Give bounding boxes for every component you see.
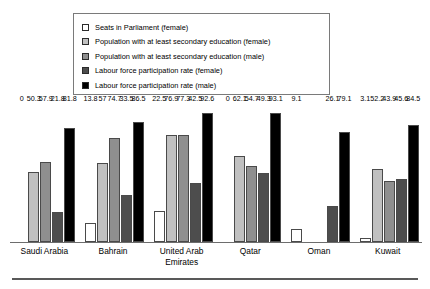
- bar-slot: 52.2: [372, 103, 383, 242]
- bar[interactable]: 92.6: [202, 113, 213, 242]
- bar[interactable]: 9.1: [291, 229, 302, 242]
- legend-swatch-icon: [82, 24, 89, 31]
- category-label: Saudi Arabia: [10, 246, 79, 257]
- legend-item-label: Population with at least secondary educa…: [95, 52, 264, 61]
- legend-swatch-icon: [82, 38, 89, 45]
- legend-item[interactable]: Population with at least secondary educa…: [82, 49, 329, 64]
- legend-item[interactable]: Labour force participation rate (male): [82, 78, 329, 93]
- bar[interactable]: 57: [97, 163, 108, 242]
- bar[interactable]: 43.9: [384, 181, 395, 242]
- category-label-line: Emirates: [147, 257, 216, 268]
- legend-item-label: Labour force participation rate (male): [95, 81, 216, 90]
- chart-page: Seats in Parliament (female)Population w…: [0, 0, 430, 289]
- bar-slot: 62.1: [234, 103, 245, 242]
- bar-value-label: 0: [226, 95, 230, 103]
- bar[interactable]: 57.9: [40, 162, 51, 242]
- x-axis-category-labels: Saudi ArabiaBahrainUnited ArabEmiratesQa…: [10, 246, 422, 274]
- bar[interactable]: 74.7: [109, 138, 120, 242]
- bar-slot: 42.5: [190, 103, 201, 242]
- bar-value-label: 84.5: [406, 95, 420, 103]
- bar-slot: 76.9: [166, 103, 177, 242]
- bar[interactable]: 52.2: [372, 169, 383, 242]
- bar-group: 9.126.179.1: [291, 103, 351, 242]
- bar-slot: 9.1: [291, 103, 302, 242]
- bar-slot: 33.5: [121, 103, 132, 242]
- category-label: United ArabEmirates: [147, 246, 216, 267]
- bar[interactable]: 84.5: [408, 125, 419, 242]
- category-label-line: United Arab: [147, 246, 216, 257]
- legend-item[interactable]: Seats in Parliament (female): [82, 20, 329, 35]
- bar-slot: 57.9: [40, 103, 51, 242]
- bar[interactable]: 93.1: [270, 113, 281, 242]
- bar-slot: 45.6: [396, 103, 407, 242]
- bar[interactable]: 26.1: [327, 206, 338, 242]
- bar-slot: 92.6: [202, 103, 213, 242]
- bar[interactable]: 45.6: [396, 179, 407, 242]
- bar-slot: 43.9: [384, 103, 395, 242]
- bar-value-label: 3.1: [360, 95, 370, 103]
- bar[interactable]: 77.3: [178, 135, 189, 242]
- bar[interactable]: 79.1: [339, 132, 350, 242]
- bar-value-label: 93.1: [269, 95, 283, 103]
- bar-slot: 50.3: [28, 103, 39, 242]
- bar-group: 3.152.243.945.684.5: [360, 103, 420, 242]
- bar[interactable]: 62.1: [234, 156, 245, 242]
- bar-value-label: 86.5: [132, 95, 146, 103]
- category-label-line: Qatar: [216, 246, 285, 257]
- category-label: Bahrain: [79, 246, 148, 257]
- bar-group: 062.154.749.393.1: [222, 103, 282, 242]
- bar-slot: 74.7: [109, 103, 120, 242]
- chart-plot-area: 050.357.921.881.813.85774.733.586.522.57…: [10, 103, 422, 243]
- category-label-line: Bahrain: [79, 246, 148, 257]
- bar-slot: 77.3: [178, 103, 189, 242]
- legend-swatch-icon: [82, 67, 89, 74]
- bar-value-label: 79.1: [338, 95, 352, 103]
- bar-group: 13.85774.733.586.5: [85, 103, 145, 242]
- legend-item[interactable]: Labour force participation rate (female): [82, 64, 329, 79]
- bar-slot: 21.8: [52, 103, 63, 242]
- bar-value-label: 92.6: [200, 95, 214, 103]
- bar-group: 050.357.921.881.8: [16, 103, 76, 242]
- x-axis-line: [10, 242, 422, 243]
- category-label: Oman: [285, 246, 354, 257]
- chart-bars-container: 050.357.921.881.813.85774.733.586.522.57…: [10, 103, 422, 243]
- bar-slot: 79.1: [339, 103, 350, 242]
- category-label: Qatar: [216, 246, 285, 257]
- bar-slot: 26.1: [327, 103, 338, 242]
- bar[interactable]: 81.8: [64, 128, 75, 242]
- bar-group: 22.576.977.342.592.6: [154, 103, 214, 242]
- bar[interactable]: 50.3: [28, 172, 39, 242]
- bar-slot: 81.8: [64, 103, 75, 242]
- legend-item[interactable]: Population with at least secondary educa…: [82, 35, 329, 50]
- bar-value-label: 81.8: [63, 95, 77, 103]
- bar[interactable]: 42.5: [190, 183, 201, 242]
- category-label-line: Saudi Arabia: [10, 246, 79, 257]
- bar[interactable]: 49.3: [258, 173, 269, 242]
- bar[interactable]: 86.5: [133, 122, 144, 242]
- bottom-divider-rule: [12, 278, 418, 280]
- category-label-line: Kuwait: [353, 246, 422, 257]
- bar-slot: 3.1: [360, 103, 371, 242]
- category-label-line: Oman: [285, 246, 354, 257]
- bar-slot: 93.1: [270, 103, 281, 242]
- bar[interactable]: 13.8: [85, 223, 96, 242]
- legend-item-label: Seats in Parliament (female): [95, 23, 188, 32]
- category-label: Kuwait: [353, 246, 422, 257]
- bar-value-label: 9.1: [292, 95, 302, 103]
- legend-swatch-icon: [82, 53, 89, 60]
- bar[interactable]: 76.9: [166, 135, 177, 242]
- bar[interactable]: 54.7: [246, 166, 257, 242]
- bar[interactable]: 33.5: [121, 195, 132, 242]
- legend-swatch-icon: [82, 82, 89, 89]
- bar-slot: 13.8: [85, 103, 96, 242]
- bar-slot: 0: [222, 103, 233, 242]
- bar-slot: 49.3: [258, 103, 269, 242]
- bar-slot: 0: [16, 103, 27, 242]
- bar-slot: 86.5: [133, 103, 144, 242]
- bar[interactable]: 22.5: [154, 211, 165, 242]
- bar-slot: [303, 103, 314, 242]
- bar-slot: 84.5: [408, 103, 419, 242]
- bar-slot: 22.5: [154, 103, 165, 242]
- legend-item-label: Population with at least secondary educa…: [95, 37, 270, 46]
- bar[interactable]: 21.8: [52, 212, 63, 242]
